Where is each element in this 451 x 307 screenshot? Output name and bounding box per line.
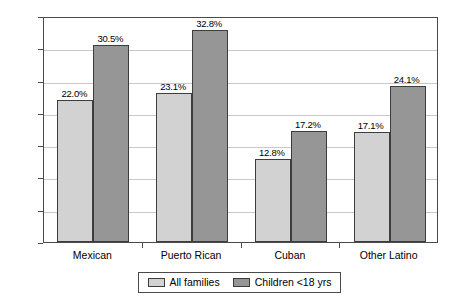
x-axis-category-label: Other Latino (339, 249, 438, 262)
chart-legend: All familiesChildren <18 yrs (138, 272, 341, 293)
x-axis-category-label: Cuban (241, 249, 340, 262)
bar-value-label: 12.8% (248, 148, 296, 158)
legend-swatch-icon (148, 278, 165, 287)
legend-label: Children <18 yrs (255, 277, 332, 288)
bar-puerto-rican-series-2 (192, 30, 228, 242)
bar-value-label: 24.1% (383, 75, 431, 85)
bar-cuban-series-1 (255, 159, 291, 242)
x-axis-category-label: Puerto Rican (142, 249, 241, 262)
bar-other-latino-series-1 (354, 132, 390, 242)
bar-value-label: 30.5% (86, 34, 134, 44)
bar-value-label: 17.2% (284, 120, 332, 130)
bar-value-label: 17.1% (347, 121, 395, 131)
x-axis-tick (142, 243, 143, 248)
bar-chart: 35%30%25%20%15%10%5%0% MexicanPuerto Ric… (0, 0, 451, 307)
bar-mexican-series-1 (57, 100, 93, 242)
bar-value-label: 22.0% (50, 89, 98, 99)
y-tick-mark (38, 243, 43, 244)
x-axis-tick (339, 243, 340, 248)
bar-cuban-series-2 (291, 131, 327, 242)
x-axis-tick (241, 243, 242, 248)
legend-entry: Children <18 yrs (233, 277, 332, 288)
bar-other-latino-series-2 (390, 86, 426, 242)
bar-value-label: 32.8% (185, 19, 233, 29)
bar-puerto-rican-series-1 (156, 93, 192, 242)
legend-swatch-icon (233, 278, 250, 287)
bar-value-label: 23.1% (149, 82, 197, 92)
bar-mexican-series-2 (93, 45, 129, 242)
legend-label: All families (170, 277, 220, 288)
x-axis-category-label: Mexican (43, 249, 142, 262)
legend-entry: All families (148, 277, 220, 288)
